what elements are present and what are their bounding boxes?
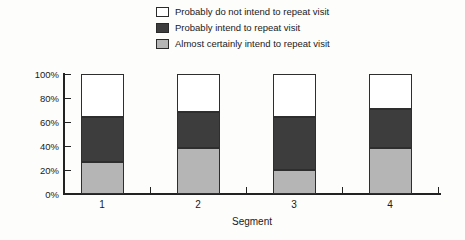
x-axis-tick — [246, 187, 247, 193]
y-axis-tick-label: 60% — [14, 117, 59, 128]
legend-item: Probably do not intend to repeat visit — [156, 6, 330, 17]
y-axis-tick-label: 80% — [14, 93, 59, 104]
bar-segment — [369, 74, 412, 109]
stacked-bar-chart: Probably do not intend to repeat visitPr… — [0, 0, 465, 240]
legend-swatch — [156, 39, 169, 49]
bar-segment — [81, 162, 124, 194]
bar-segment — [177, 148, 220, 194]
legend-label: Almost certainly intend to repeat visit — [175, 38, 330, 49]
y-axis-tick-label: 0% — [14, 189, 59, 200]
y-axis-tick-label: 20% — [14, 165, 59, 176]
x-axis-title: Segment — [64, 216, 440, 228]
bar-segment — [273, 74, 316, 117]
stacked-bar-segment-2 — [177, 74, 220, 194]
legend-label: Probably do not intend to repeat visit — [175, 6, 329, 17]
x-axis-tick — [150, 187, 151, 193]
x-axis-category-label: 2 — [177, 199, 220, 211]
bar-segment — [81, 74, 124, 117]
x-axis-category-label: 4 — [369, 199, 412, 211]
legend-label: Probably intend to repeat visit — [175, 22, 300, 33]
bar-segment — [369, 109, 412, 149]
stacked-bar-segment-4 — [369, 74, 412, 194]
x-axis-category-label: 3 — [273, 199, 316, 211]
y-axis-tick-label: 40% — [14, 141, 59, 152]
legend-swatch — [156, 23, 169, 33]
bar-segment — [273, 170, 316, 194]
x-axis-tick — [438, 187, 439, 193]
bar-segment — [177, 112, 220, 148]
stacked-bar-segment-1 — [81, 74, 124, 194]
bar-segment — [273, 117, 316, 170]
legend-item: Probably intend to repeat visit — [156, 22, 330, 33]
x-axis-tick — [342, 187, 343, 193]
legend-swatch — [156, 7, 169, 17]
bar-segment — [369, 148, 412, 194]
x-axis-category-label: 1 — [81, 199, 124, 211]
chart-legend: Probably do not intend to repeat visitPr… — [156, 6, 330, 49]
legend-item: Almost certainly intend to repeat visit — [156, 38, 330, 49]
y-axis-tick-label: 100% — [14, 69, 59, 80]
bar-segment — [177, 74, 220, 112]
stacked-bar-segment-3 — [273, 74, 316, 194]
plot-area — [64, 74, 440, 194]
bar-segment — [81, 117, 124, 161]
